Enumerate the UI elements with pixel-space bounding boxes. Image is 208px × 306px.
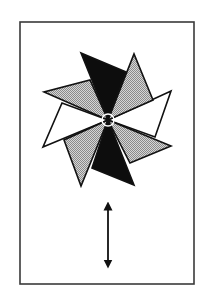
pinwheel-figure	[43, 53, 171, 186]
diagram-canvas	[0, 0, 208, 306]
